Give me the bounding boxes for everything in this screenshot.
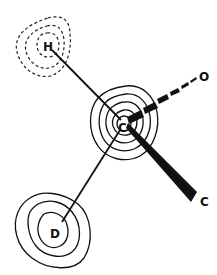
bond-c-c-wedge: [126, 123, 197, 202]
bond-c-o-hashed-wedge: [127, 77, 197, 124]
atom-label-c-center: C: [118, 121, 127, 135]
atom-label-o: O: [199, 70, 209, 84]
atom-label-h: H: [43, 40, 53, 54]
bond-c-h: [52, 50, 121, 120]
atom-label-d: D: [50, 227, 60, 241]
atom-label-c-lower: C: [200, 195, 209, 209]
bond-c-d: [62, 130, 120, 222]
molecule-diagram: H C O C D: [0, 0, 217, 275]
